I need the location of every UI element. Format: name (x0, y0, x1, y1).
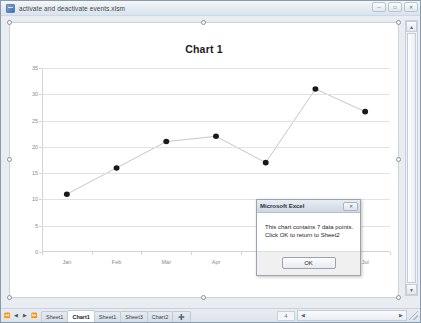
y-tick-mark-5 (39, 226, 42, 227)
dialog-body: This chart contains 7 data points. Click… (257, 213, 360, 251)
window-titlebar: activate and deactivate events.xlsm ─ □ … (1, 1, 420, 16)
chart-sheet-work-area: Chart 1 05101520253035JanFebMarAprMayJun… (1, 16, 420, 308)
y-gridline-15 (42, 173, 390, 174)
resize-grip[interactable] (409, 311, 418, 320)
chevron-down-icon: ▼ (409, 287, 414, 292)
next-sheet-button[interactable]: ▶ (21, 311, 29, 320)
x-tick-mark-7 (390, 252, 391, 255)
vertical-scrollbar[interactable]: ▲ ▼ (405, 20, 418, 296)
dialog-message-line-2: Click OK to return to Sheet2 (265, 231, 352, 239)
y-tick-mark-30 (39, 94, 42, 95)
scroll-down-button[interactable]: ▼ (406, 284, 417, 295)
data-point-jan[interactable] (64, 191, 70, 197)
sheet-tab-2[interactable]: Sheet1 (94, 311, 121, 322)
close-button[interactable]: ✕ (404, 2, 418, 12)
data-point-may[interactable] (263, 160, 269, 166)
sheet-tab-1[interactable]: Chart1 (67, 310, 94, 322)
first-sheet-button[interactable]: ⏪ (3, 311, 11, 320)
minimize-button[interactable]: ─ (372, 2, 386, 12)
prev-sheet-button[interactable]: ◀ (12, 311, 20, 320)
y-gridline-30 (42, 94, 390, 95)
chart-handle-top-right[interactable] (396, 20, 401, 25)
y-tick-label-5: 5 (35, 223, 38, 229)
chart-handle-mid-right[interactable] (396, 157, 401, 162)
y-gridline-35 (42, 68, 390, 69)
y-tick-label-0: 0 (35, 249, 38, 255)
vertical-scroll-thumb[interactable] (407, 33, 416, 283)
x-tick-mark-3 (191, 252, 192, 255)
dialog-close-button[interactable]: ✕ (343, 202, 358, 211)
y-gridline-20 (42, 147, 390, 148)
y-tick-label-15: 15 (32, 170, 38, 176)
x-tick-label-jan: Jan (62, 259, 71, 265)
x-tick-mark-4 (241, 252, 242, 255)
sheet-tab-bar: ⏪ ◀ ▶ ⏩ Sheet1Chart1Sheet1Sheet3Chart2➕ … (1, 308, 420, 322)
series-polyline (67, 89, 365, 194)
minimize-icon: ─ (377, 5, 381, 10)
data-point-mar[interactable] (163, 139, 169, 145)
chart-handle-mid-left[interactable] (7, 157, 12, 162)
horizontal-scroll-track[interactable] (308, 311, 396, 320)
sheet-tab-4[interactable]: Chart2 (147, 311, 174, 322)
y-tick-mark-15 (39, 173, 42, 174)
x-tick-label-apr: Apr (212, 259, 221, 265)
chevron-up-icon: ▲ (409, 24, 414, 29)
dialog-titlebar: Microsoft Excel ✕ (257, 200, 360, 213)
dialog-message-line-1: This chart contains 7 data points. (265, 223, 352, 231)
horizontal-scrollbar[interactable]: ◀ ▶ (297, 310, 407, 321)
excel-workbook-icon (6, 4, 15, 13)
y-tick-mark-35 (39, 68, 42, 69)
sheet-tabs: Sheet1Chart1Sheet1Sheet3Chart2➕ (41, 310, 190, 322)
chart-handle-bottom-left[interactable] (7, 295, 12, 300)
window-controls: ─ □ ✕ (372, 2, 418, 12)
y-tick-mark-25 (39, 121, 42, 122)
x-tick-label-feb: Feb (112, 259, 121, 265)
data-point-jun[interactable] (312, 86, 318, 92)
y-tick-label-30: 30 (32, 91, 38, 97)
scroll-left-button[interactable]: ◀ (298, 311, 308, 320)
chart-handle-bottom-right[interactable] (396, 295, 401, 300)
status-cell: 4 (277, 311, 295, 321)
y-tick-label-25: 25 (32, 118, 38, 124)
data-point-apr[interactable] (213, 134, 219, 140)
dialog-footer: OK (257, 251, 360, 275)
dialog-ok-button[interactable]: OK (282, 257, 336, 269)
y-tick-label-35: 35 (32, 65, 38, 71)
y-tick-label-20: 20 (32, 144, 38, 150)
dialog-title: Microsoft Excel (260, 203, 304, 209)
data-point-feb[interactable] (114, 165, 120, 171)
y-gridline-25 (42, 121, 390, 122)
chart-handle-top-center[interactable] (201, 20, 206, 25)
maximize-button[interactable]: □ (388, 2, 402, 12)
excel-window: activate and deactivate events.xlsm ─ □ … (0, 0, 421, 323)
chart-handle-bottom-center[interactable] (201, 295, 206, 300)
x-tick-mark-0 (42, 252, 43, 255)
x-tick-label-jul: Jul (362, 259, 369, 265)
scroll-right-button[interactable]: ▶ (396, 311, 406, 320)
y-tick-label-10: 10 (32, 196, 38, 202)
x-tick-mark-1 (92, 252, 93, 255)
sheet-tab-3[interactable]: Sheet3 (120, 311, 147, 322)
maximize-icon: □ (393, 5, 396, 10)
tabbar-right-group: 4 ◀ ▶ (277, 310, 418, 321)
new-sheet-tab[interactable]: ➕ (172, 311, 191, 322)
chart-title: Chart 1 (10, 43, 398, 55)
window-title: activate and deactivate events.xlsm (19, 5, 125, 12)
sheet-tab-0[interactable]: Sheet1 (41, 311, 68, 322)
message-dialog[interactable]: Microsoft Excel ✕ This chart contains 7 … (256, 199, 361, 276)
x-tick-label-mar: Mar (162, 259, 171, 265)
last-sheet-button[interactable]: ⏩ (30, 311, 38, 320)
y-tick-mark-10 (39, 199, 42, 200)
x-tick-mark-2 (141, 252, 142, 255)
sheet-nav-buttons: ⏪ ◀ ▶ ⏩ (3, 311, 38, 320)
chart-handle-top-left[interactable] (7, 20, 12, 25)
data-point-jul[interactable] (362, 109, 368, 115)
y-tick-mark-20 (39, 147, 42, 148)
close-icon: ✕ (409, 5, 413, 10)
scroll-up-button[interactable]: ▲ (406, 21, 417, 32)
